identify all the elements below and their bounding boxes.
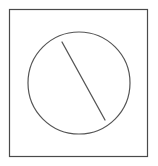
figure-canvas <box>0 0 158 166</box>
